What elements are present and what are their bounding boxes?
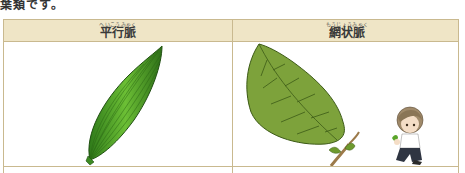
term-net: 網状脈 <box>233 27 461 40</box>
header-cell-net: もうじょうみゃく 網状脈 <box>233 20 461 41</box>
table-header-row: へいこうみゃく 平行脈 もうじょうみゃく 網状脈 <box>4 20 458 42</box>
kneeling-character-icon <box>388 104 428 166</box>
cell-parallel-leaf <box>4 42 232 166</box>
intro-text: 葉類です。 <box>0 0 64 12</box>
vein-comparison-table: へいこうみゃく 平行脈 もうじょうみゃく 網状脈 <box>3 19 459 173</box>
cell-net-leaf <box>233 42 461 166</box>
header-cell-parallel: へいこうみゃく 平行脈 <box>4 20 232 41</box>
term-parallel: 平行脈 <box>4 27 232 40</box>
row-divider <box>4 166 458 167</box>
parallel-vein-leaf-icon <box>4 42 232 166</box>
